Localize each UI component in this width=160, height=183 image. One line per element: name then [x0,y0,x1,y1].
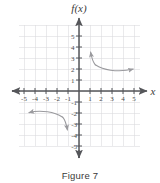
x-tick-label: -4 [32,95,38,103]
x-tick-label: 4 [121,95,125,103]
figure-container: -5 -4 -3 -2 -1 1 2 3 4 5 5 4 3 2 1 -1 -2… [0,0,160,183]
figure-caption: Figure 7 [0,170,160,181]
curve-left-branch-arrow-tail [63,117,68,130]
y-tick-label: -3 [71,121,77,129]
y-tick-label: -1 [71,99,77,107]
x-tick-label: 2 [99,95,103,103]
y-tick-label: 3 [71,55,75,63]
x-tick-label: -2 [54,95,60,103]
x-tick-label: 5 [132,95,136,103]
curve-right-branch-arrow-tail [91,52,96,65]
y-tick-label: 1 [71,77,75,85]
y-tick-label: -2 [71,110,77,118]
y-axis-label: f(x) [71,2,87,15]
coordinate-graph: -5 -4 -3 -2 -1 1 2 3 4 5 5 4 3 2 1 -1 -2… [0,0,160,168]
y-tick-label: -4 [71,132,77,140]
x-tick-label: 1 [88,95,92,103]
x-tick-label: 3 [110,95,114,103]
y-tick-label: -5 [71,143,77,151]
x-tick-label: -5 [21,95,27,103]
y-tick-label: 5 [71,33,75,41]
x-tick-label: -3 [43,95,49,103]
y-tick-label: 2 [71,66,75,74]
y-tick-label: 4 [71,44,75,52]
x-axis-label: x [150,85,156,97]
axes [12,18,147,158]
